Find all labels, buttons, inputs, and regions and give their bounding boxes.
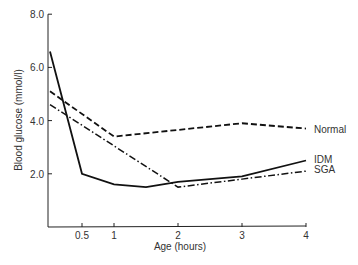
x-tick-label: 4 — [303, 230, 309, 241]
y-tick-label: 8.0 — [30, 9, 44, 20]
y-tick-label: 4.0 — [30, 116, 44, 127]
x-tick-label: 1 — [111, 230, 117, 241]
series-lines — [50, 51, 306, 187]
y-tick-label: 6.0 — [30, 62, 44, 73]
x-axis-line — [48, 226, 306, 227]
blood-glucose-chart: 2.04.06.08.00.51234 NormalIDMSGA Blood g… — [0, 0, 358, 265]
series-label-normal: Normal — [314, 124, 346, 135]
axes: 2.04.06.08.00.51234 — [30, 9, 309, 241]
series-labels: NormalIDMSGA — [314, 124, 346, 176]
x-axis-title: Age (hours) — [154, 241, 206, 252]
y-axis-title: Blood glucose (mmol/l) — [13, 69, 24, 171]
series-label-sga: SGA — [314, 164, 335, 175]
y-tick-label: 2.0 — [30, 169, 44, 180]
series-line-sga — [50, 105, 306, 187]
x-tick-label: 0.5 — [75, 230, 89, 241]
series-label-idm: IDM — [314, 154, 332, 165]
x-tick-label: 2 — [175, 230, 181, 241]
x-tick-label: 3 — [239, 230, 245, 241]
